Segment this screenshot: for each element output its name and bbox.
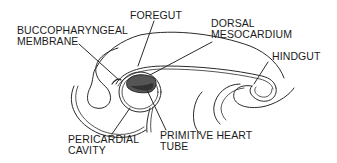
leader-dorsal-mesocardium <box>150 42 212 75</box>
label-pericardial-cavity: PERICARDIAL CAVITY <box>68 134 139 156</box>
label-dorsal-mesocardium-line2: MESOCARDIUM <box>211 29 292 40</box>
hindgut-inner-curve <box>255 87 272 97</box>
yolk-stalk-right <box>151 107 153 132</box>
leader-foregut <box>138 21 154 66</box>
hindgut-outer-curve <box>250 86 276 101</box>
label-hindgut-line1: HINDGUT <box>272 51 321 62</box>
label-pericardial-cavity-line2: CAVITY <box>68 145 139 156</box>
label-foregut: FOREGUT <box>130 10 182 21</box>
leader-pericardial-cavity <box>112 108 130 134</box>
label-dorsal-mesocardium: DORSAL MESOCARDIUM <box>211 18 292 40</box>
allantois-curve <box>234 86 294 108</box>
caudal-curl-inner <box>221 88 244 120</box>
yolk-stalk-left <box>147 108 150 132</box>
leader-hindgut <box>254 62 268 84</box>
label-foregut-line1: FOREGUT <box>130 10 182 21</box>
label-hindgut: HINDGUT <box>272 51 321 62</box>
head-fold-outline <box>88 48 118 108</box>
label-buccopharyngeal-line2: MEMBRANE <box>17 36 128 47</box>
label-primitive-heart-tube: PRIMITIVE HEART TUBE <box>160 130 252 152</box>
label-primitive-heart-tube-line2: TUBE <box>160 141 252 152</box>
connecting-stalk <box>193 92 202 134</box>
label-buccopharyngeal-membrane: BUCCOPHARYNGEAL MEMBRANE <box>17 25 128 47</box>
